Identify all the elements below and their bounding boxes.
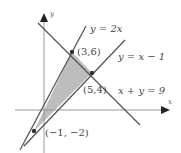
y-axis-label: y [49,10,55,18]
x-axis-label: x [168,98,172,106]
vertex-3-6 [70,50,74,54]
line3-label: x + y = 9 [118,85,166,96]
vertex-5-4 [90,71,94,75]
vertex-neg1-neg2-label: (−1, −2) [45,127,89,138]
line1-label: y = 2x [89,23,123,34]
vertex-5-4-label: (5,4) [83,84,107,95]
y-axis-arrow-icon [40,13,48,22]
diagram-canvas: y x y = 2x y = x − 1 x + y = 9 (3,6) (5,… [0,0,181,153]
line2-label: y = x − 1 [117,51,165,62]
vertex-3-6-label: (3,6) [77,46,101,57]
vertex-neg1-neg2 [32,129,36,133]
x-axis-arrow-icon [161,106,170,114]
